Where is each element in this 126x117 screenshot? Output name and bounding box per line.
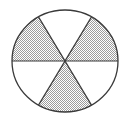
fraction-circle-graphic [0, 0, 126, 117]
fraction-circle-figure: Circle divided into six equal sectors wi… [0, 0, 126, 117]
